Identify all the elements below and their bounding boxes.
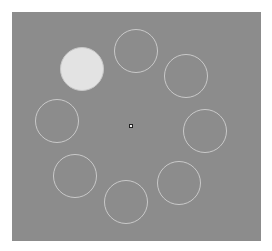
task-stage xyxy=(12,12,261,241)
target-circle-lower-right[interactable] xyxy=(157,161,201,205)
target-circle-lower-left[interactable] xyxy=(53,154,97,198)
target-circle-top[interactable] xyxy=(114,29,158,73)
fixation-point-icon xyxy=(129,124,133,128)
target-circle-upper-left[interactable] xyxy=(60,47,104,91)
target-circle-bottom[interactable] xyxy=(104,180,148,224)
target-circle-upper-right[interactable] xyxy=(164,54,208,98)
target-circle-right[interactable] xyxy=(183,109,227,153)
target-circle-left[interactable] xyxy=(35,99,79,143)
